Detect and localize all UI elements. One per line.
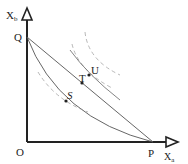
x-axis-label: Xa: [164, 151, 175, 164]
origin-label: O: [16, 146, 24, 158]
label-u: U: [91, 64, 99, 76]
diagram-canvas: Xb Xa O Q P S T U: [0, 0, 188, 164]
line-q-p-straight: [27, 37, 153, 142]
x-axis-arrow-icon: [166, 137, 178, 147]
label-q: Q: [14, 31, 22, 43]
label-s: S: [67, 89, 73, 101]
y-axis-arrow-icon: [22, 8, 32, 20]
label-t: T: [79, 72, 86, 84]
label-p: P: [148, 147, 154, 159]
y-axis-label: Xb: [6, 9, 18, 23]
